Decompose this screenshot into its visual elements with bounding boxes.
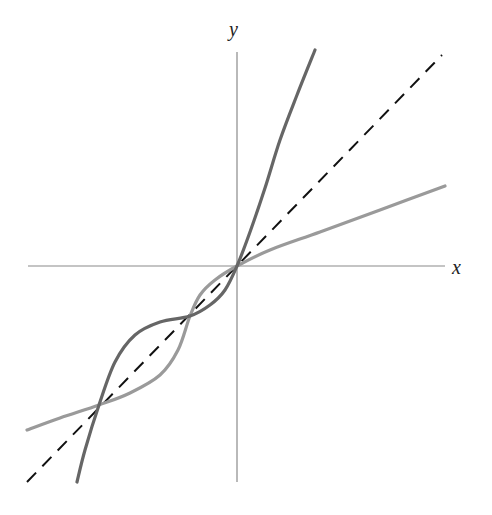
x-axis-label: x — [452, 256, 461, 279]
y-axis-label: y — [229, 18, 238, 41]
inverse-function-curve — [27, 186, 445, 430]
function-inverse-plot — [0, 0, 492, 515]
